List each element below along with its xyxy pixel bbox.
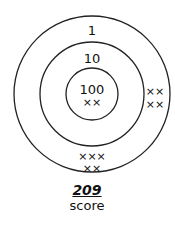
hit-marks: ×× [78,97,106,108]
outer-ring-label: 1 [80,24,104,37]
hit-marks: ×× [74,163,110,174]
score-label: score [62,199,112,212]
hit-marks: ×× [144,86,166,97]
middle-right-hits: ×× ×× [144,86,166,110]
middle-ring-label: 10 [78,52,106,65]
inner-ring-label: 100 [76,83,108,96]
score-value: 209 [62,183,112,197]
outer-bottom-hits: ××× ×× [74,151,110,174]
hit-marks: ××× [74,151,110,162]
hit-marks: ×× [144,99,166,110]
inner-hits: ×× [78,97,106,108]
